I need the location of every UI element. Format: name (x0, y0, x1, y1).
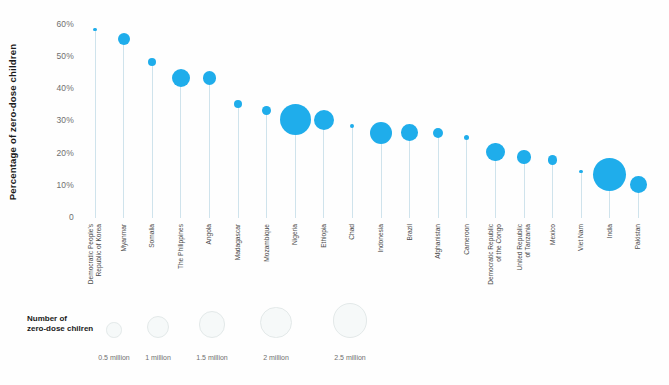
bubble-myanmar (118, 33, 130, 45)
legend-size-circle (260, 307, 291, 338)
bubble-cameroon (464, 135, 469, 140)
zero-dose-bubble-chart: Percentage of zero-dose children 60%50%4… (0, 0, 669, 385)
x-label-country: Pakistan (634, 224, 642, 314)
x-label-country: Democratic Republic of the Congo (487, 224, 503, 314)
legend-size-label: 2.5 million (318, 354, 382, 361)
bubble-brazil (401, 124, 418, 141)
bubble-somalia (148, 58, 156, 66)
bubble-democratic-republic (486, 143, 505, 162)
bubble-pakistan (630, 176, 647, 193)
stem-angola (209, 78, 210, 218)
x-label-country: Democratic People's Republic of Korea (87, 224, 103, 314)
y-tick-label: 20% (34, 148, 74, 158)
bubble-afghanistan (433, 128, 444, 139)
y-tick-label: 0 (34, 212, 74, 222)
bubble-madagascar (234, 100, 242, 108)
x-label-country: Somalia (148, 224, 156, 314)
stem-cameroon (466, 138, 467, 218)
x-label-country: Cameroon (463, 224, 471, 314)
bubble-ethiopia (314, 110, 334, 130)
x-label-country: Nigeria (291, 224, 299, 314)
y-axis-title: Percentage of zero-dose children (7, 22, 19, 222)
bubble-nigeria (280, 104, 311, 135)
stem-myanmar (123, 39, 124, 218)
x-label-country: Mexico (549, 224, 557, 314)
x-label-country: Indonesia (377, 224, 385, 314)
y-tick-label: 60% (34, 19, 74, 29)
stem-madagascar (238, 104, 239, 218)
x-label-country: The Philippines (177, 224, 185, 314)
x-label-country: United Republic of Tanzania (516, 224, 532, 314)
x-label-country: Angola (205, 224, 213, 314)
stem-mexico (552, 160, 553, 218)
y-tick-label: 50% (34, 51, 74, 61)
stem-afghanistan (438, 133, 439, 218)
legend-size-label: 1.5 million (180, 354, 244, 361)
x-label-country: Chad (348, 224, 356, 314)
x-label-country: India (606, 224, 614, 314)
stem-ethiopia (323, 120, 324, 218)
bubble-angola (203, 71, 216, 84)
bubble-united-republic (517, 150, 530, 163)
legend-size-label: 2 million (244, 354, 308, 361)
y-tick-label: 30% (34, 115, 74, 125)
bubble-indonesia (370, 122, 392, 144)
stem-brazil (409, 133, 410, 218)
stem-united-republic (524, 157, 525, 218)
x-label-country: Afghanistan (434, 224, 442, 314)
size-legend-title: Number of zero-dose chilren (27, 314, 93, 333)
legend-size-circle (333, 303, 368, 338)
legend-size-circle (147, 316, 169, 338)
bubble-mozambique (262, 106, 271, 115)
x-label-country: Ethiopia (320, 224, 328, 314)
x-label-country: Viet Nam (577, 224, 585, 314)
y-tick-label: 40% (34, 83, 74, 93)
stem-democratic-republic (495, 152, 496, 218)
y-tick-label: 10% (34, 180, 74, 190)
x-label-country: Brazil (406, 224, 414, 314)
bubble-viet-nam (579, 170, 583, 174)
bubble-the-philippines (172, 69, 190, 87)
x-label-country: Mozambique (263, 224, 271, 314)
x-label-country: Madagascar (234, 224, 242, 314)
stem-the-philippines (180, 78, 181, 218)
bubble-india (593, 158, 626, 191)
stem-mozambique (266, 110, 267, 218)
stem-democratic-people-s (95, 30, 96, 218)
bubble-democratic-people-s (93, 28, 96, 31)
x-label-country: Myanmar (120, 224, 128, 314)
stem-chad (352, 126, 353, 218)
bubble-chad (350, 124, 354, 128)
legend-size-circle (106, 322, 122, 338)
stem-viet-nam (581, 171, 582, 218)
bubble-mexico (548, 155, 557, 164)
legend-size-circle (199, 311, 226, 338)
stem-indonesia (381, 133, 382, 218)
stem-somalia (152, 62, 153, 218)
